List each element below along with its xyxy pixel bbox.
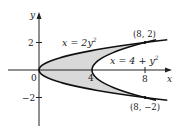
point-8-2	[144, 41, 147, 44]
curve1-label: x = 2y2	[62, 36, 97, 48]
x-axis-arrow-icon	[165, 68, 172, 73]
region-between-curves-diagram: y x 2 −2 0 4 8 x = 2y2 x = 4 + y2 (8, 2)…	[0, 0, 182, 129]
origin-label: 0	[31, 73, 37, 83]
y-axis-arrow-icon	[37, 12, 42, 19]
tick-label-y2: 2	[28, 38, 34, 48]
point-8-neg2	[144, 96, 147, 99]
point-label-8-2: (8, 2)	[133, 29, 156, 39]
tick-label-x8: 8	[142, 74, 148, 84]
point-label-8-neg2: (8, −2)	[130, 102, 160, 112]
tick-label-x4: 4	[88, 73, 94, 83]
y-axis-label: y	[29, 10, 36, 20]
tick-label-ym2: −2	[22, 93, 35, 103]
curve2-label: x = 4 + y2	[110, 54, 159, 66]
x-axis-label: x	[167, 74, 172, 84]
